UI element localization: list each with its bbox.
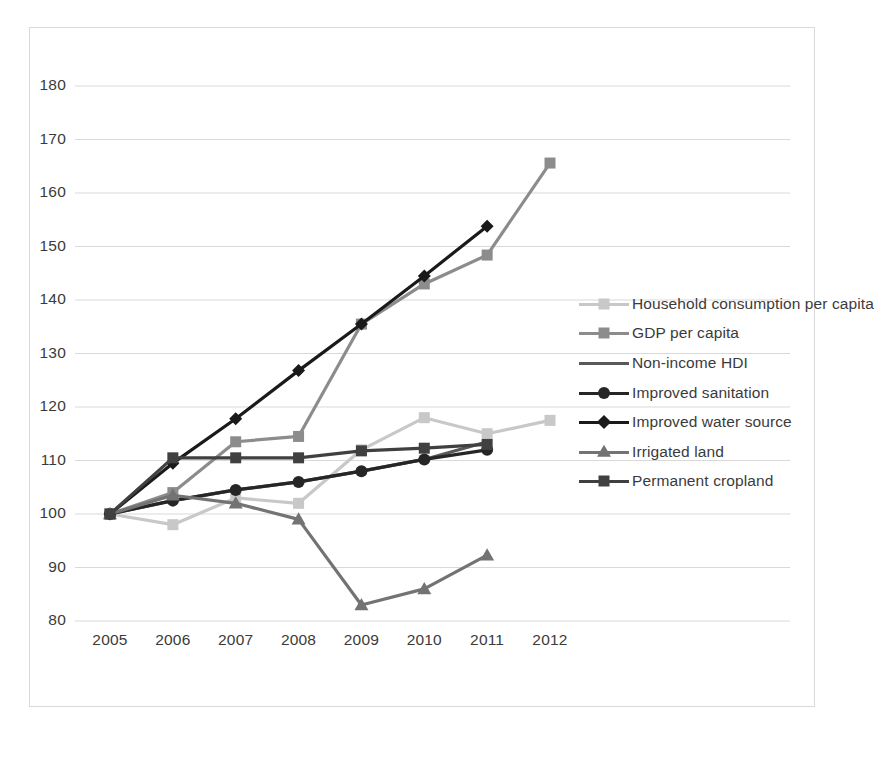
- legend-item-2[interactable]: Non-income HDI: [576, 348, 874, 378]
- x-axis-tick-label: 2012: [518, 631, 582, 649]
- legend-item-0[interactable]: Household consumption per capita: [576, 289, 874, 319]
- data-point-marker: [482, 250, 493, 261]
- x-axis-tick-label: 2007: [204, 631, 268, 649]
- legend-label: Irrigated land: [632, 443, 724, 461]
- legend-item-6[interactable]: Permanent cropland: [576, 467, 874, 497]
- legend-label: Non-income HDI: [632, 354, 748, 372]
- legend-line: [579, 362, 629, 365]
- y-axis-tick-label: 110: [20, 451, 66, 469]
- data-point-marker: [480, 548, 494, 560]
- legend-label: Permanent cropland: [632, 472, 773, 490]
- legend-marker-square-icon: [599, 298, 610, 309]
- legend-swatch-icon: [576, 411, 632, 433]
- chart-container: 1801701601501401301201101009080 20052006…: [0, 0, 878, 777]
- series-4: [104, 220, 494, 521]
- y-axis-tick-label: 90: [20, 558, 66, 576]
- y-axis-tick-label: 120: [20, 397, 66, 415]
- legend-marker-circle-icon: [598, 387, 610, 399]
- legend-label: Improved sanitation: [632, 384, 769, 402]
- legend-label: Improved water source: [632, 413, 792, 431]
- legend-item-5[interactable]: Irrigated land: [576, 437, 874, 467]
- legend-marker-diamond-icon: [597, 415, 611, 429]
- legend-item-1[interactable]: GDP per capita: [576, 319, 874, 349]
- data-point-marker: [355, 465, 367, 477]
- y-axis-tick-label: 140: [20, 290, 66, 308]
- legend-swatch-icon: [576, 293, 632, 315]
- data-point-marker: [230, 484, 242, 496]
- data-point-marker: [293, 498, 304, 509]
- y-axis-tick-label: 160: [20, 183, 66, 201]
- data-point-marker: [419, 412, 430, 423]
- x-axis-tick-label: 2008: [267, 631, 331, 649]
- chart-legend: Household consumption per capitaGDP per …: [576, 289, 874, 496]
- data-point-marker: [230, 452, 241, 463]
- legend-swatch-icon: [576, 470, 632, 492]
- x-axis-tick-label: 2005: [78, 631, 142, 649]
- y-axis-tick-label: 170: [20, 130, 66, 148]
- y-axis-tick-label: 100: [20, 504, 66, 522]
- legend-marker-triangle-icon: [597, 445, 611, 457]
- y-axis-tick-label: 180: [20, 76, 66, 94]
- legend-marker-square-icon: [599, 328, 610, 339]
- legend-marker-square-icon: [599, 476, 610, 487]
- legend-item-3[interactable]: Improved sanitation: [576, 378, 874, 408]
- x-axis-tick-label: 2010: [392, 631, 456, 649]
- data-point-marker: [418, 453, 430, 465]
- y-axis-tick-label: 130: [20, 344, 66, 362]
- data-point-marker: [545, 158, 556, 169]
- y-axis-tick-label: 150: [20, 237, 66, 255]
- data-point-marker: [293, 431, 304, 442]
- legend-swatch-icon: [576, 441, 632, 463]
- data-point-marker: [482, 428, 493, 439]
- series-layer: [103, 158, 556, 611]
- data-point-marker: [230, 436, 241, 447]
- x-axis-tick-label: 2011: [455, 631, 519, 649]
- data-point-marker: [482, 439, 493, 450]
- x-axis-tick-label: 2006: [141, 631, 205, 649]
- series-0: [105, 412, 556, 530]
- legend-swatch-icon: [576, 322, 632, 344]
- data-point-marker: [293, 452, 304, 463]
- legend-label: Household consumption per capita: [632, 295, 874, 313]
- x-axis-tick-label: 2009: [329, 631, 393, 649]
- data-point-marker: [167, 519, 178, 530]
- legend-swatch-icon: [576, 382, 632, 404]
- y-axis-tick-label: 80: [20, 611, 66, 629]
- data-point-marker: [419, 443, 430, 454]
- data-point-marker: [356, 445, 367, 456]
- legend-item-4[interactable]: Improved water source: [576, 407, 874, 437]
- data-point-marker: [105, 509, 116, 520]
- series-line: [110, 495, 487, 605]
- data-point-marker: [293, 476, 305, 488]
- legend-swatch-icon: [576, 352, 632, 374]
- data-point-marker: [545, 415, 556, 426]
- legend-label: GDP per capita: [632, 324, 739, 342]
- data-point-marker: [167, 452, 178, 463]
